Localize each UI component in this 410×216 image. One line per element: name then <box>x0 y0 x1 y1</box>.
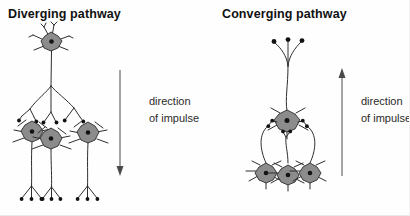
converging-pathway-drawing <box>246 37 346 191</box>
converging-synapse-boutons <box>266 119 308 134</box>
top-neuron-dendrites <box>29 22 73 50</box>
central-neuron-dendrites <box>268 108 308 139</box>
converging-pathway-title: Converging pathway <box>222 7 347 21</box>
output-neuron-right-axon <box>88 143 89 186</box>
diverging-pathway-title: Diverging pathway <box>8 7 121 21</box>
diverging-synaptic-boutons <box>17 119 85 125</box>
input-neuron-left-dendrites <box>246 161 282 189</box>
top-neuron-nucleus <box>49 39 54 44</box>
output-neuron-left-dendrites <box>13 120 52 142</box>
output-neuron-right-nucleus <box>86 130 91 135</box>
output-neuron-left-nucleus <box>30 129 35 134</box>
output-neuron-left-boutons <box>20 197 44 201</box>
top-neuron-soma <box>41 32 62 51</box>
output-neuron-right-terminals <box>78 186 97 198</box>
output-neuron-right-soma <box>77 122 99 143</box>
converging-input-terminals <box>275 41 301 66</box>
output-neuron-middle-terminals <box>43 187 60 198</box>
right-caption-line-2: of impulse <box>361 110 410 127</box>
arrow-up-icon <box>339 68 346 176</box>
input-neuron-left-nucleus <box>264 171 269 176</box>
output-neuron-middle-nucleus <box>49 136 54 141</box>
left-impulse-direction-caption: direction of impulse <box>149 93 199 127</box>
converging-input-neuron-left <box>246 161 282 189</box>
input-neuron-middle-soma <box>277 165 299 185</box>
output-neuron-left-soma <box>21 121 43 142</box>
left-caption-line-2: of impulse <box>149 110 199 127</box>
input-neuron-right-nucleus <box>308 171 313 176</box>
central-neuron-soma <box>274 110 300 132</box>
output-neuron-middle-boutons <box>41 197 63 201</box>
input-neuron-left-soma <box>255 163 277 183</box>
input-neuron-right-dendrites <box>290 161 326 189</box>
converging-input-boutons <box>272 37 305 44</box>
output-neuron-middle-axon <box>51 149 52 187</box>
output-neuron-middle-dendrites <box>32 127 71 149</box>
neural-pathway-figure: Diverging pathway Converging pathway dir… <box>0 0 410 216</box>
output-neuron-left-axon <box>32 142 33 186</box>
diverging-pathway-drawing <box>13 22 124 201</box>
pathway-illustration <box>0 0 410 216</box>
output-neuron-left-terminals <box>22 186 41 198</box>
left-caption-line-1: direction <box>149 93 199 110</box>
diverging-axon-tree <box>19 51 83 122</box>
converging-main-axon <box>286 66 288 111</box>
output-neuron-right-dendrites <box>69 121 108 143</box>
arrow-down-icon <box>117 70 124 176</box>
input-neuron-right-soma <box>299 163 321 183</box>
converging-input-neuron-middle <box>268 163 304 191</box>
converging-central-neuron <box>268 108 308 139</box>
diverging-output-neuron-right <box>69 121 108 201</box>
converging-input-neuron-right <box>290 161 326 189</box>
input-neuron-middle-dendrites <box>268 163 304 191</box>
central-neuron-nucleus <box>285 118 290 123</box>
output-neuron-right-boutons <box>76 197 100 201</box>
converging-input-fibres <box>261 121 315 163</box>
right-impulse-direction-caption: direction of impulse <box>361 93 410 127</box>
diverging-output-neuron-left <box>13 120 52 201</box>
output-neuron-middle-soma <box>40 128 62 149</box>
input-neuron-middle-nucleus <box>286 173 291 178</box>
right-caption-line-1: direction <box>361 93 410 110</box>
diverging-output-neuron-middle <box>32 127 71 201</box>
